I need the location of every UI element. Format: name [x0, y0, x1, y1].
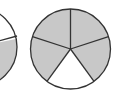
five-part-circle [31, 9, 111, 89]
fraction-diagram [0, 0, 120, 100]
